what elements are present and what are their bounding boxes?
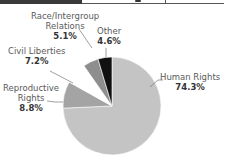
label-name: Other: [97, 26, 121, 36]
label-human-rights: Human Rights 74.3%: [160, 72, 220, 92]
label-name: Reproductive: [3, 83, 59, 93]
label-value: 7.2%: [8, 56, 65, 66]
label-name: Civil Liberties: [8, 46, 65, 56]
label-value: 5.1%: [31, 31, 99, 41]
label-value: 74.3%: [160, 82, 220, 92]
label-value: 8.8%: [3, 103, 59, 113]
label-civil-liberties: Civil Liberties 7.2%: [8, 46, 65, 66]
label-name-line2: Rights: [3, 93, 59, 103]
label-reproductive-rights: Reproductive Rights 8.8%: [3, 83, 59, 113]
label-value: 4.6%: [97, 36, 121, 46]
pie-slices: [63, 57, 161, 155]
label-race-intergroup: Race/Intergroup Relations 5.1%: [31, 11, 99, 41]
label-other: Other 4.6%: [97, 26, 121, 46]
label-name-line2: Relations: [31, 21, 99, 31]
label-name: Human Rights: [160, 72, 220, 82]
label-name: Race/Intergroup: [31, 11, 99, 21]
leader-civil-liberties: [50, 71, 73, 83]
